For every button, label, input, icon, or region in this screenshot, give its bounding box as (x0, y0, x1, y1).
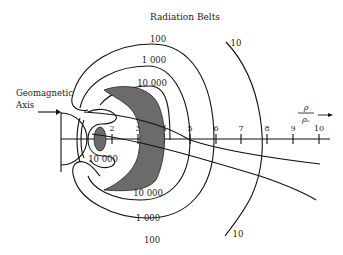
label-bottom-10000: 10 000 (133, 188, 163, 198)
tick-label-9: 9 (290, 124, 295, 133)
label-top-1000: 1 000 (142, 55, 166, 65)
label-top-10000: 10 000 (137, 78, 167, 88)
label-top-100: 100 (150, 34, 166, 44)
tick-label-10: 10 (314, 124, 324, 133)
tick-label-7: 7 (238, 124, 243, 133)
axis-direction-arrow-icon (328, 113, 333, 117)
geomagnetic-label: Geomagnetic (16, 88, 73, 98)
label-inner-10000: 10 000 (88, 154, 118, 164)
tick-label-8: 8 (264, 124, 269, 133)
axis-label: Axis (15, 100, 34, 110)
diagram-title: Radiation Belts (150, 12, 220, 22)
label-bottom-1000: 1 000 (136, 213, 160, 223)
contour-100-inner-top (72, 98, 88, 111)
axis-label-numerator: ρ (303, 103, 309, 112)
axis-pointer-arrowhead-icon (56, 109, 61, 115)
label-bottom-10: 10 (233, 229, 244, 239)
label-top-10: 10 (231, 38, 242, 48)
label-bottom-100: 100 (144, 235, 160, 245)
radiation-belts-diagram: Radiation Belts Geomagnetic Axis 2 3 4 5… (0, 0, 343, 255)
inner-belt (94, 127, 106, 151)
contour-near-earth-2 (77, 118, 80, 162)
axis-label-denominator: ρₑ (301, 115, 310, 124)
tick-label-2: 2 (109, 124, 114, 133)
